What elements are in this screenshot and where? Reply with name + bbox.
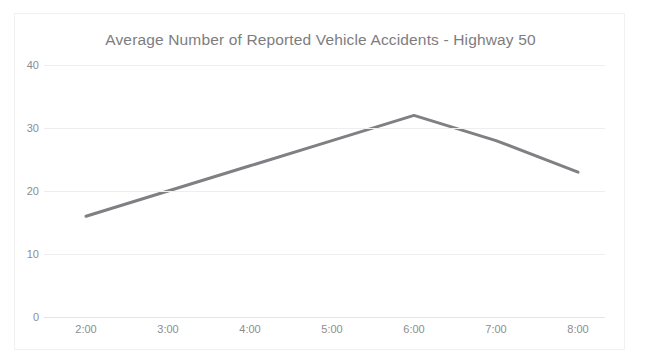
x-axis-tick-label: 7:00 <box>466 323 526 335</box>
y-axis-tick-label: 20 <box>15 185 39 197</box>
plot-area: 0102030402:003:004:005:006:007:008:00 <box>15 14 626 351</box>
gridline-0 <box>44 317 605 318</box>
x-axis-tick-label: 5:00 <box>302 323 362 335</box>
x-axis-tick-label: 6:00 <box>384 323 444 335</box>
y-axis-tick-label: 0 <box>15 311 39 323</box>
x-axis-tick-label: 2:00 <box>56 323 116 335</box>
gridline-30 <box>44 128 605 129</box>
gridline-10 <box>44 254 605 255</box>
gridline-20 <box>44 191 605 192</box>
x-axis-tick-label: 8:00 <box>548 323 608 335</box>
clipped-ghost-text: · · · · · · · · · · · · <box>28 0 117 5</box>
top-clipped-strip: · · · · · · · · · · · · <box>0 0 646 11</box>
line-series-path <box>86 115 578 216</box>
y-axis-tick-label: 30 <box>15 122 39 134</box>
gridline-40 <box>44 65 605 66</box>
x-axis-tick-label: 3:00 <box>138 323 198 335</box>
chart-container: Average Number of Reported Vehicle Accid… <box>14 13 625 350</box>
y-axis-tick-label: 40 <box>15 59 39 71</box>
y-axis-tick-label: 10 <box>15 248 39 260</box>
x-axis-tick-label: 4:00 <box>220 323 280 335</box>
